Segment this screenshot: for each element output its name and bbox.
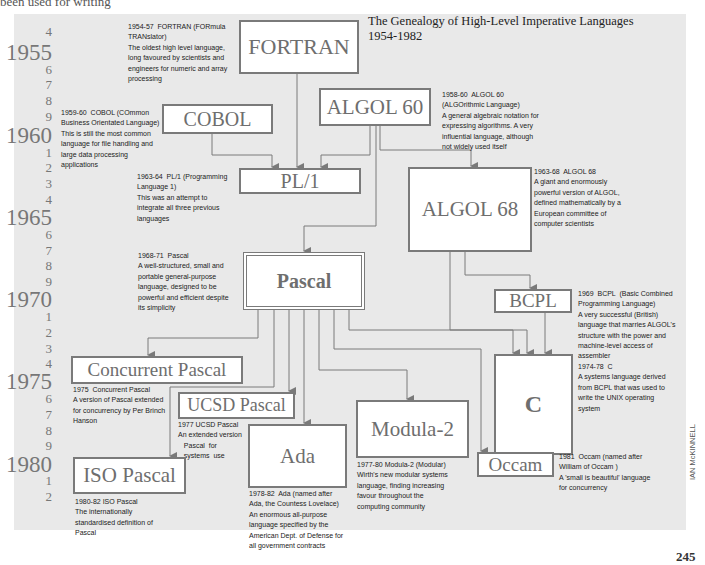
note-line: An enormous all-purpose: [249, 510, 369, 520]
note-line: large data processing: [61, 150, 183, 160]
note-line: This was an attempt to: [137, 193, 257, 203]
note-line: The oldest high level language,: [128, 43, 258, 53]
note-line: engineers for numeric and array: [128, 64, 258, 74]
note-line: Hanson: [73, 416, 193, 426]
note-line: defined mathematically by a: [534, 198, 659, 208]
language-name: UCSD Pascal: [187, 395, 286, 416]
language-box-ada: Ada: [248, 424, 347, 488]
language-name: FORTRAN: [248, 34, 349, 60]
note-line: Language 1): [137, 182, 257, 192]
note-line: Business Orientated Language): [61, 118, 183, 128]
note-line: TRANslator): [128, 32, 258, 42]
note-line: The internationally: [75, 507, 195, 517]
language-box-ucsd-pascal: UCSD Pascal: [178, 392, 295, 419]
note-line: write the UNIX operating: [578, 393, 705, 403]
note-line: language specified by the: [249, 520, 369, 530]
note-line: 1963-68 ALGOL 68: [534, 167, 659, 177]
note-line: from BCPL that was used to: [578, 383, 705, 393]
note-line: 1969 BCPL (Basic Combined: [578, 289, 705, 299]
note-line: 1968-71 Pascal: [138, 251, 263, 261]
language-box-c: C: [494, 354, 573, 455]
note-line: A version of Pascal extended: [73, 395, 193, 405]
language-box-algol60: ALGOL 60: [319, 88, 431, 126]
language-note-ada: 1978-82 Ada (named afterAda, the Countes…: [249, 489, 369, 551]
note-line: A general algebraic notation for: [442, 111, 572, 121]
note-line: integrate all three previous: [137, 203, 257, 213]
language-name: PL/1: [281, 170, 320, 193]
language-note-pascal: 1968-71 PascalA well-structured, small a…: [138, 251, 263, 313]
note-line: A 'small is beautiful' language: [559, 473, 689, 483]
note-line: language for file handling and: [61, 139, 183, 149]
note-line: standardised definition of: [75, 518, 195, 528]
language-box-iso-pascal: ISO Pascal: [73, 457, 186, 494]
note-line: not widely used itself: [442, 142, 572, 152]
connector-pascal-to-c: [349, 310, 513, 353]
language-note-c: 1974-78 CA systems language derivedfrom …: [578, 362, 705, 414]
note-line: powerful and efficient despite: [138, 293, 263, 303]
note-line: A well-structured, small and: [138, 261, 263, 271]
note-line: European committee of: [534, 209, 659, 219]
note-line: applications: [61, 160, 183, 170]
note-line: expressing algorithms. A very: [442, 121, 572, 131]
note-line: structure with the power and: [578, 331, 705, 341]
language-name: BCPL: [509, 290, 557, 312]
note-line: powerful version of ALGOL,: [534, 188, 659, 198]
language-name: ALGOL 68: [422, 197, 519, 222]
note-line: 1959-60 COBOL (COmmon: [61, 108, 183, 118]
note-line: Ada, the Countess Lovelace): [249, 499, 369, 509]
note-line: A very successful (British): [578, 310, 705, 320]
note-line: for concurrency: [559, 483, 689, 493]
language-box-algol68: ALGOL 68: [408, 167, 532, 252]
photo-credit: IAN McKINNELL: [688, 424, 697, 480]
note-line: 1981 Occam (named after: [559, 452, 689, 462]
note-line: Pascal: [75, 528, 195, 538]
note-line: This is still the most common: [61, 129, 183, 139]
note-line: Programming Language): [578, 299, 705, 309]
language-note-occam: 1981 Occam (named afterWilliam of Occam …: [559, 452, 689, 494]
note-line: 1980-82 ISO Pascal: [75, 497, 195, 507]
language-box-occam: Occam: [477, 452, 554, 477]
language-note-modula2: 1977-80 Modula-2 (Modular)Wirth's new mo…: [357, 460, 487, 512]
note-line: 1977-80 Modula-2 (Modular): [357, 460, 487, 470]
note-line: 1974-78 C: [578, 362, 705, 372]
note-line: all government contracts: [249, 541, 369, 551]
language-note-fortran: 1954-57 FORTRAN (FORmulaTRANslator)The o…: [128, 22, 258, 84]
note-line: (ALGOrithmic Language): [442, 100, 572, 110]
language-name: Pascal: [277, 270, 331, 293]
note-line: languages: [137, 214, 257, 224]
language-name: ISO Pascal: [83, 463, 176, 488]
language-note-iso-pascal: 1980-82 ISO PascalThe internationallysta…: [75, 497, 195, 539]
note-line: 1975 Concurrent Pascal: [73, 385, 193, 395]
language-box-pl1: PL/1: [239, 168, 361, 194]
language-box-concurrent-pascal: Concurrent Pascal: [71, 356, 243, 384]
language-note-algol60: 1958-60 ALGOL 60(ALGOrithmic Language)A …: [442, 90, 572, 152]
language-name: Ada: [280, 444, 315, 469]
note-line: Wirth's new modular systems: [357, 470, 487, 480]
note-line: 1978-82 Ada (named after: [249, 489, 369, 499]
connector-pascal-to-concurrent-pascal: [148, 310, 258, 355]
note-line: 1963-64 PL/1 (Programming: [137, 172, 257, 182]
language-note-pl1: 1963-64 PL/1 (ProgrammingLanguage 1)This…: [137, 172, 257, 224]
language-name: Concurrent Pascal: [88, 359, 227, 381]
note-line: language that marries ALGOL's: [578, 320, 705, 330]
connector-cobol-to-pl1: [212, 134, 272, 167]
note-line: favour throughout the: [357, 491, 487, 501]
note-line: long favoured by scientists and: [128, 53, 258, 63]
language-name: C: [525, 391, 542, 418]
note-line: A giant and enormously: [534, 177, 659, 187]
language-box-bcpl: BCPL: [494, 289, 572, 313]
language-note-bcpl: 1969 BCPL (Basic CombinedProgramming Lan…: [578, 289, 705, 362]
language-name: Modula-2: [371, 417, 454, 442]
note-line: portable general-purpose: [138, 272, 263, 282]
note-line: influential language, although: [442, 132, 572, 142]
note-line: American Dept. of Defense for: [249, 531, 369, 541]
note-line: language, finding increasing: [357, 481, 487, 491]
note-line: language, designed to be: [138, 282, 263, 292]
note-line: computer scientists: [534, 219, 659, 229]
note-line: machine-level access of: [578, 341, 705, 351]
note-line: 1958-60 ALGOL 60: [442, 90, 572, 100]
language-name: Occam: [489, 454, 543, 476]
language-note-cobol: 1959-60 COBOL (COmmonBusiness Orientated…: [61, 108, 183, 170]
language-name: ALGOL 60: [327, 95, 424, 120]
page-number: 245: [676, 549, 696, 565]
